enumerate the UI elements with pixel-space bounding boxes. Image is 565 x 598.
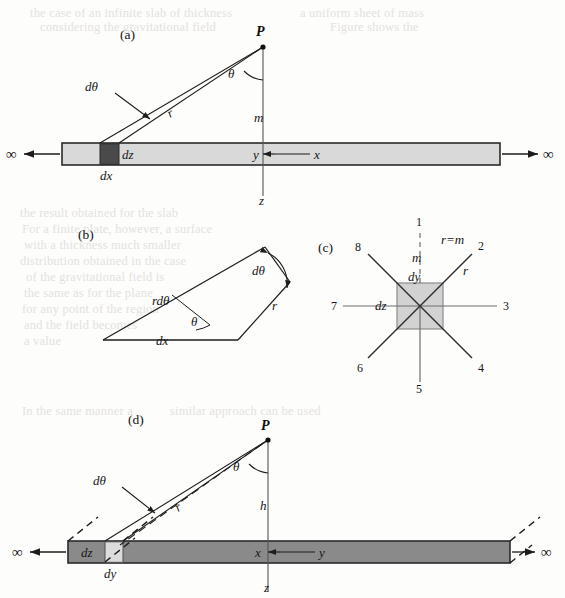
panel-c-ray-label-5: 5: [416, 382, 422, 396]
panel-c-ray-6: [368, 306, 420, 358]
panel-b-r-label: r: [272, 298, 278, 313]
panel-b-side-r: [238, 282, 290, 340]
panel-d: (d) P θ: [12, 412, 552, 595]
panel-d-dtheta-label: dθ: [93, 473, 107, 488]
panel-c-m-label: m: [412, 250, 421, 265]
panel-a-mass-element: [100, 144, 119, 165]
panel-d-ray-dashed: [120, 444, 262, 545]
panel-c-dz-label: dz: [375, 298, 387, 313]
panel-c-r-label: r: [463, 263, 469, 278]
panel-d-dy-label: dy: [104, 566, 117, 581]
panel-a-left-infinity: ∞: [6, 146, 17, 162]
panel-a-r-label: r: [164, 105, 177, 121]
panel-c-dy-label: dy: [408, 269, 421, 284]
panel-a-point-P-label: P: [256, 24, 265, 39]
panel-c-ray-label-3: 3: [503, 299, 509, 313]
panel-a-point-P-dot: [260, 44, 265, 49]
panel-b-dtheta-label: dθ: [252, 263, 266, 278]
panel-b-dx-label: dx: [156, 333, 169, 348]
panel-d-x-axis-label: x: [254, 545, 261, 560]
panel-c-ray-label-7: 7: [331, 299, 337, 313]
panel-d-point-P-label: P: [261, 418, 270, 433]
panel-d-tag: (d): [128, 412, 144, 427]
panel-a-theta-arc: [244, 71, 263, 80]
panel-d-persp-right-bottom: [510, 545, 532, 563]
figure-page: the case of an infinite slab of thicknes…: [0, 0, 565, 598]
panel-a: (a) ∞ ∞ P θ dθ r: [6, 24, 554, 208]
panel-b-theta-arc: [196, 325, 210, 330]
panel-a-dtheta-leader: [115, 93, 150, 119]
panel-b-theta-label: θ: [191, 314, 198, 329]
panel-b: (b) rdθ θ dθ r dx: [78, 227, 290, 348]
physics-figure: (a) ∞ ∞ P θ dθ r: [0, 0, 565, 598]
panel-b-side-upper: [103, 247, 265, 340]
panel-d-y-axis-label: y: [317, 545, 325, 560]
panel-c-ray-2: [420, 254, 472, 306]
panel-c-ray-label-6: 6: [357, 361, 363, 375]
panel-d-persp-right-top: [510, 517, 540, 541]
panel-a-dz-label: dz: [122, 147, 134, 162]
panel-a-dtheta-label: dθ: [85, 79, 99, 94]
panel-d-point-P-dot: [265, 437, 270, 442]
panel-d-dtheta-leader: [122, 487, 155, 513]
panel-a-right-infinity: ∞: [543, 146, 554, 162]
panel-c-r-equals-m-label: r=m: [441, 232, 464, 247]
panel-a-m-label: m: [254, 110, 263, 125]
panel-a-ray-upper: [100, 47, 263, 143]
panel-d-z-axis-label: z: [263, 580, 269, 595]
panel-c-tag: (c): [318, 240, 333, 255]
panel-b-tag: (b): [78, 227, 94, 242]
panel-d-persp-left-top: [68, 517, 98, 541]
panel-d-left-infinity: ∞: [12, 544, 23, 560]
panel-c-ray-label-4: 4: [478, 361, 484, 375]
panel-a-y-axis-label: y: [251, 147, 259, 162]
panel-b-rdtheta-label: rdθ: [152, 293, 170, 308]
panel-a-theta-label: θ: [228, 66, 235, 81]
panel-a-tag: (a): [120, 27, 135, 42]
panel-a-x-axis-label: x: [313, 147, 320, 162]
panel-b-dtheta-arc: [268, 253, 287, 288]
panel-d-ray-upper: [105, 440, 268, 541]
panel-d-right-infinity: ∞: [541, 544, 552, 560]
panel-c-ray-4: [420, 306, 472, 358]
panel-c-ray-label-8: 8: [355, 240, 361, 254]
panel-c: (c) 1 5 3 7 2 4 6 8 r=m m: [318, 215, 509, 396]
panel-c-ray-label-1: 1: [416, 215, 422, 229]
panel-a-ray-lower: [119, 47, 263, 143]
panel-a-dx-label: dx: [100, 168, 113, 183]
panel-d-dz-label: dz: [81, 545, 93, 560]
panel-a-z-axis-label: z: [258, 193, 264, 208]
panel-d-theta-label: θ: [233, 459, 240, 474]
panel-d-h-label: h: [260, 498, 267, 513]
panel-d-theta-arc: [249, 464, 268, 473]
panel-c-ray-label-2: 2: [478, 239, 484, 253]
